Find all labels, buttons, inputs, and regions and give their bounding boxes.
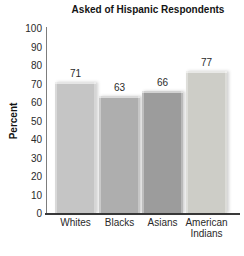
y-tick-label: 70 bbox=[10, 79, 42, 90]
y-tick-label: 0 bbox=[10, 208, 42, 219]
bar-value-label: 71 bbox=[55, 68, 96, 79]
x-tick-label: Asians bbox=[138, 217, 188, 228]
y-tick-label: 60 bbox=[10, 97, 42, 108]
bar-asians bbox=[142, 91, 183, 213]
x-axis-line bbox=[45, 213, 240, 215]
bar-whites bbox=[55, 82, 96, 213]
y-tick-label: 20 bbox=[10, 171, 42, 182]
y-tick-label: 10 bbox=[10, 190, 42, 201]
bar-chart: Asked of Hispanic Respondents Percent 10… bbox=[0, 0, 244, 256]
bar-value-label: 63 bbox=[99, 82, 140, 93]
y-tick-label: 80 bbox=[10, 60, 42, 71]
x-tick-label: American Indians bbox=[182, 217, 232, 239]
y-tick-label: 90 bbox=[10, 42, 42, 53]
bar-blacks bbox=[99, 96, 140, 213]
y-axis-line bbox=[46, 27, 47, 213]
y-tick-label: 100 bbox=[10, 23, 42, 34]
chart-title: Asked of Hispanic Respondents bbox=[52, 4, 244, 15]
bar-value-label: 66 bbox=[142, 77, 183, 88]
y-tick-label: 30 bbox=[10, 153, 42, 164]
y-tick-label: 50 bbox=[10, 116, 42, 127]
bar-value-label: 77 bbox=[186, 57, 227, 68]
bar-american-indians bbox=[186, 71, 227, 213]
y-tick-label: 40 bbox=[10, 134, 42, 145]
x-tick-label: Whites bbox=[51, 217, 101, 228]
